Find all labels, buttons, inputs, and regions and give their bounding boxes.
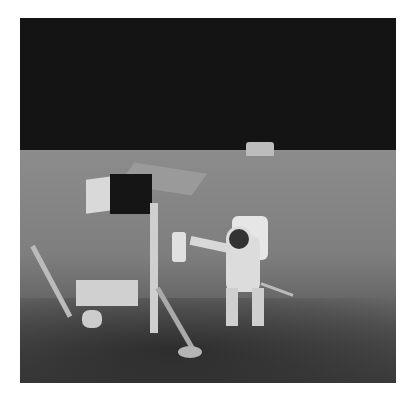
surveyor-antenna-light — [86, 176, 112, 214]
astronaut-leg — [252, 288, 264, 326]
black-sky — [20, 18, 396, 150]
surveyor-antenna-dark — [110, 174, 152, 214]
lunar-module-on-horizon — [246, 142, 274, 156]
surveyor-mast — [150, 203, 158, 333]
astronaut-helmet — [226, 226, 252, 252]
foreground-shadow — [20, 298, 396, 383]
surveyor-footpad — [82, 310, 102, 328]
surveyor-body-box — [76, 280, 138, 306]
surveyor-footpad — [178, 346, 202, 358]
lunar-photograph — [20, 18, 396, 383]
surveyor-camera — [172, 232, 186, 262]
astronaut-leg — [226, 288, 238, 326]
